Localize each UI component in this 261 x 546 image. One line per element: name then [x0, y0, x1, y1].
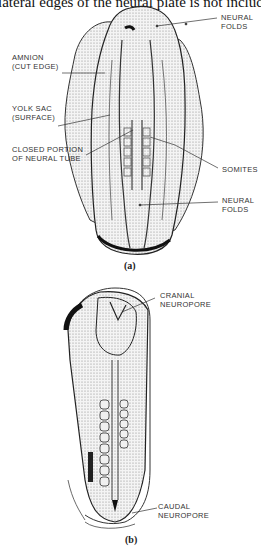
label-line: FOLDS — [222, 205, 249, 214]
label-line: NEUROPORE — [158, 511, 209, 520]
label-neural-folds-top: NEURALFOLDS — [221, 14, 253, 31]
label-line: (SURFACE) — [12, 113, 55, 122]
label-closed-neural-tube: CLOSED PORTIONOF NEURAL TUBE — [12, 146, 83, 163]
label-line: SOMITES — [222, 165, 258, 174]
label-amnion: AMNION(CUT EDGE) — [12, 54, 59, 71]
embryo-b — [66, 288, 150, 528]
label-line: OF NEURAL TUBE — [12, 154, 81, 163]
label-somites: SOMITES — [222, 166, 258, 175]
label-yolk-sac: YOLK SAC(SURFACE) — [12, 105, 55, 122]
label-line: FOLDS — [221, 22, 248, 31]
label-line: (CUT EDGE) — [12, 62, 59, 71]
label-neural-folds-bottom: NEURALFOLDS — [222, 197, 254, 214]
caption-b: (b) — [125, 534, 137, 545]
label-caudal-neuropore: CAUDALNEUROPORE — [158, 503, 209, 520]
embryo-illustrations — [0, 0, 261, 546]
label-cranial-neuropore: CRANIALNEUROPORE — [160, 292, 211, 309]
embryo-a — [65, 6, 203, 254]
label-line: NEUROPORE — [160, 300, 211, 309]
caption-a: (a) — [124, 260, 136, 271]
